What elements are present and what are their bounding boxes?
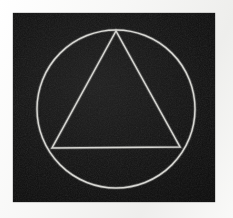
triangle-glow: [52, 31, 180, 148]
symbol-figure: [13, 13, 215, 202]
circle-glow: [37, 30, 195, 188]
triangle-outline: [52, 31, 180, 148]
image-canvas: A white outlined circle with an inscribe…: [0, 0, 233, 218]
black-panel: [13, 13, 215, 202]
symbol-svg: [13, 13, 215, 202]
